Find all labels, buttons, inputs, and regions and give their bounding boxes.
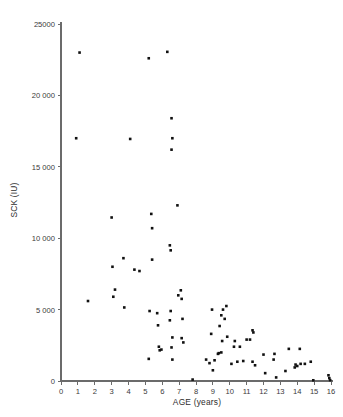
data-point [177,294,180,297]
data-point [170,148,173,151]
data-point [157,324,160,327]
data-point [327,374,330,377]
y-tick-label: 25000 [34,20,55,29]
data-point [147,358,150,361]
data-point [296,365,299,368]
x-tick-label: 9 [211,387,215,396]
x-tick-label: 11 [243,387,251,396]
x-tick-label: 2 [93,387,97,396]
data-point [114,288,117,291]
scatter-plot-figure: 05 00010 00015 00020 00025000 0123456789… [0,0,343,417]
data-point [242,360,245,363]
y-tick-label: 20 000 [32,91,55,100]
data-point [234,340,237,343]
data-point [236,360,239,363]
data-point [169,244,172,247]
data-point [252,331,255,334]
data-point [226,335,229,338]
data-point [170,117,173,120]
data-point [288,348,291,351]
data-point [138,270,141,273]
data-point [251,360,254,363]
data-point [213,359,216,362]
data-point [245,338,248,341]
data-point [262,353,265,356]
data-point [147,57,150,60]
data-point [110,216,113,219]
x-axis-title: AGE (years) [173,397,221,407]
x-axis-ticks: 012345678910111213141516 [59,380,335,396]
data-point [158,345,161,348]
data-point [181,318,184,321]
data-point [123,306,126,309]
x-tick-label: 10 [226,387,234,396]
y-tick-label: 10 000 [32,234,55,243]
data-point [151,258,154,261]
data-point [221,340,224,343]
data-point [156,312,159,315]
data-point [111,265,114,268]
data-point [218,325,221,328]
data-point [212,369,215,372]
data-point [273,353,276,356]
data-point [170,346,173,349]
data-point [171,358,174,361]
data-point [210,333,213,336]
x-tick-label: 16 [327,387,335,396]
data-point [208,362,211,365]
x-tick-label: 15 [310,387,318,396]
data-point [169,249,172,252]
data-point [299,363,302,366]
data-point [151,227,154,230]
data-point [87,300,90,303]
data-point [112,295,115,298]
data-point [329,379,332,382]
data-point [225,305,228,308]
data-point [233,345,236,348]
data-point [239,345,242,348]
data-point [171,336,174,339]
data-point [264,372,267,375]
data-point [293,366,296,369]
x-tick-label: 7 [177,387,181,396]
data-point [220,351,223,354]
data-point [304,363,307,366]
data-point [180,289,183,292]
data-point [122,257,125,260]
data-point [230,363,233,366]
data-point [166,51,169,54]
data-point [160,348,163,351]
data-point [309,360,312,363]
data-point [223,318,226,321]
data-point [150,213,153,216]
x-tick-label: 6 [160,387,164,396]
data-point [176,204,179,207]
data-point [169,319,172,322]
data-point [169,310,172,313]
data-point [298,348,301,351]
data-point [133,268,136,271]
x-tick-label: 8 [194,387,198,396]
x-tick-label: 14 [293,387,301,396]
data-point [211,308,214,311]
y-axis-title: SCK (IU) [9,182,19,217]
data-point [217,352,220,355]
y-axis-ticks: 05 00010 00015 00020 00025000 [32,20,62,386]
x-tick-label: 4 [126,387,130,396]
x-tick-label: 3 [110,387,114,396]
x-tick-label: 0 [59,387,63,396]
data-point [205,358,208,361]
x-tick-label: 1 [76,387,80,396]
x-tick-label: 13 [276,387,284,396]
data-point [272,358,275,361]
data-point [78,51,81,54]
data-point [254,364,257,367]
data-point [220,314,223,317]
y-tick-label: 5 000 [36,306,55,315]
data-point [284,370,287,373]
y-tick-label: 15 000 [32,163,55,172]
data-point [148,310,151,313]
data-point [191,378,194,381]
data-point [222,308,225,311]
x-tick-label: 5 [143,387,147,396]
